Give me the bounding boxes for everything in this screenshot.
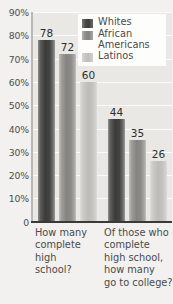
bar-value-label: 35: [127, 128, 148, 139]
legend-swatch-icon: [82, 31, 93, 40]
y-tick-label: 90%: [0, 8, 29, 17]
legend-label: Latinos: [98, 51, 133, 62]
x-axis: How many complete high school? Of those …: [32, 227, 173, 304]
bar-value-label: 44: [106, 107, 127, 118]
y-tick-label: 70%: [0, 55, 29, 64]
x-category-label-college: Of those who complete high school, how m…: [104, 227, 173, 289]
x-axis-line: [31, 221, 172, 223]
gridline: [32, 12, 172, 13]
bar-chart-figure: 90% 80% 70% 60% 50% 40% 30% 20% 10% 0 78…: [0, 0, 173, 304]
legend-item-african-americans: African Americans: [82, 29, 164, 50]
legend-label: African Americans: [98, 29, 150, 50]
y-tick-label: 20%: [0, 171, 29, 180]
legend: Whites African Americans Latinos: [78, 14, 166, 66]
y-tick-label: 50%: [0, 101, 29, 110]
legend-swatch-icon: [82, 53, 93, 62]
y-tick-label: 60%: [0, 78, 29, 87]
bar-value-label: 60: [78, 70, 99, 81]
y-axis-line: [31, 12, 33, 223]
legend-label: Whites: [98, 17, 132, 28]
bar-latinos-college: [150, 161, 167, 222]
y-tick-label: 0: [0, 218, 29, 227]
legend-item-whites: Whites: [82, 17, 164, 28]
y-tick-label: 10%: [0, 194, 29, 203]
bar-latinos-highschool: [80, 82, 97, 222]
bar-value-label: 78: [36, 28, 57, 39]
bar-african-americans-highschool: [59, 54, 76, 222]
bar-whites-college: [108, 119, 125, 222]
bar-whites-highschool: [38, 40, 55, 222]
y-tick-label: 40%: [0, 125, 29, 134]
legend-item-latinos: Latinos: [82, 51, 164, 62]
y-axis: 90% 80% 70% 60% 50% 40% 30% 20% 10% 0: [0, 8, 31, 222]
x-category-label-highschool: How many complete high school?: [35, 227, 101, 277]
legend-swatch-icon: [82, 19, 93, 28]
bar-value-label: 26: [148, 149, 169, 160]
y-tick-label: 30%: [0, 148, 29, 157]
bar-value-label: 72: [57, 42, 78, 53]
bar-african-americans-college: [129, 140, 146, 222]
y-tick-label: 80%: [0, 31, 29, 40]
